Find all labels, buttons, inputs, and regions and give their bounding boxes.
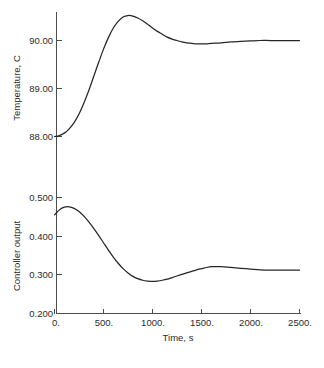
y-ticklabel-co-0200: 0.200 — [29, 308, 53, 319]
controller-output-panel: 0.500 0.400 0.300 0.200 Controller outpu… — [11, 192, 300, 319]
controller-output-curve — [55, 207, 300, 282]
x-ticklabel-2500: 2500. — [288, 317, 312, 328]
x-axis-title: Time, s — [163, 332, 194, 343]
y-axis-title-temperature: Temperature, C — [11, 55, 22, 121]
y-ticklabel-co-0500: 0.500 — [29, 192, 53, 203]
y-ticklabel-temp-8900: 89.00 — [29, 83, 53, 94]
y-ticklabel-co-0400: 0.400 — [29, 231, 53, 242]
y-ticklabel-temp-8800: 88.00 — [29, 131, 53, 142]
x-ticklabel-1500: 1500. — [190, 317, 214, 328]
plot-svg: 90.00 89.00 88.00 Temperature, C 0.500 0… — [0, 0, 324, 368]
y-ticklabel-co-0300: 0.300 — [29, 269, 53, 280]
temperature-curve — [55, 15, 300, 136]
temperature-panel: 90.00 89.00 88.00 Temperature, C — [11, 15, 300, 142]
y-axis-title-controller-output: Controller output — [11, 221, 22, 292]
chart-figure: 90.00 89.00 88.00 Temperature, C 0.500 0… — [0, 0, 324, 368]
x-ticklabel-0: 0. — [52, 317, 60, 328]
x-ticklabel-1000: 1000. — [141, 317, 165, 328]
y-ticklabel-temp-9000: 90.00 — [29, 35, 53, 46]
x-ticklabel-2000: 2000. — [239, 317, 263, 328]
x-ticklabel-500: 500. — [95, 317, 114, 328]
